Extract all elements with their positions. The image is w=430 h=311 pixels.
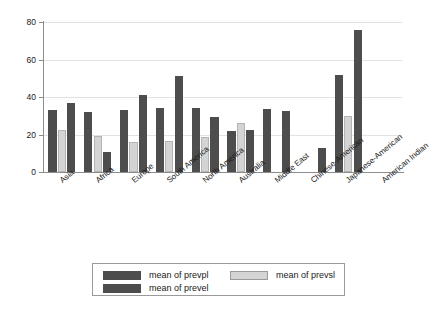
legend-entry-prevpl: mean of prevpl [103,269,209,281]
bar-group [330,22,366,172]
bar [48,110,56,172]
bar-group [259,22,295,172]
chart-legend: mean of prevpl mean of prevsl mean of pr… [92,263,345,296]
y-tick-mark [39,135,43,136]
bar-group [295,22,331,172]
bar [192,108,200,172]
bar [139,95,147,172]
y-tick-mark [39,60,43,61]
y-tick-mark [39,22,43,23]
bar [67,103,75,172]
legend-label-prevel: mean of prevel [149,283,209,293]
y-tick-label: 60 [27,56,36,65]
bar [263,109,271,172]
bar [84,112,92,172]
bar-group [223,22,259,172]
bar [165,141,173,172]
y-tick-label: 20 [27,131,36,140]
bar [227,131,235,172]
bar [201,137,209,172]
legend-entry-prevsl: mean of prevsl [230,269,335,281]
bar [246,130,254,172]
legend-label-prevpl: mean of prevpl [149,270,209,280]
bar [344,116,352,172]
bar-group [80,22,116,172]
bar-group [366,22,402,172]
y-tick-label: 0 [31,168,36,177]
bar-group [151,22,187,172]
legend-entry-prevel: mean of prevel [103,282,209,294]
bar [175,76,183,172]
x-axis-line [43,172,404,173]
bar [318,148,326,172]
bar [94,136,102,172]
y-tick-label: 40 [27,93,36,102]
legend-swatch-prevsl [230,271,268,280]
bar [282,111,290,172]
plot-area [44,22,402,172]
bar [335,75,343,173]
bar [354,30,362,173]
legend-swatch-prevel [103,284,141,293]
y-tick-label: 80 [27,18,36,27]
bar-group [187,22,223,172]
legend-swatch-prevpl [103,271,141,280]
bar [237,123,245,172]
bar [58,130,66,172]
y-tick-mark [39,172,43,173]
legend-label-prevsl: mean of prevsl [276,270,335,280]
bar [120,110,128,172]
bar [129,142,137,172]
bar [210,117,218,172]
bar-group [44,22,80,172]
bar [103,152,111,172]
bar [156,108,164,172]
y-tick-mark [39,97,43,98]
bar-group [116,22,152,172]
